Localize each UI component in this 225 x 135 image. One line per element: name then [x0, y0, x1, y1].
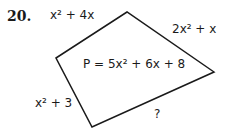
side-label-top-left: x² + 4x	[50, 8, 94, 22]
side-label-bottom: ?	[154, 107, 160, 121]
side-label-left: x² + 3	[35, 96, 72, 110]
problem-figure: 20. x² + 4x 2x² + x P = 5x² + 6x + 8 x² …	[0, 0, 225, 135]
perimeter-label: P = 5x² + 6x + 8	[83, 57, 185, 71]
side-label-top-right: 2x² + x	[172, 22, 216, 36]
